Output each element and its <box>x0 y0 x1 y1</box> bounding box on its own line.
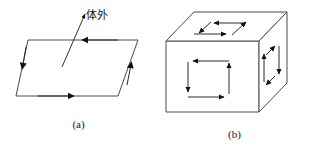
edge-arrow-left <box>22 47 26 69</box>
panel-a-drawing <box>0 0 157 153</box>
caption-a: (a) <box>0 118 157 130</box>
cube-front-face <box>166 41 259 112</box>
figure-container: 体外 (a) <box>0 0 313 153</box>
caption-b: (b) <box>156 128 313 140</box>
panel-a: 体外 <box>0 0 157 153</box>
parallelogram-outline <box>16 40 138 96</box>
outward-normal-label: 体外 <box>86 6 108 22</box>
